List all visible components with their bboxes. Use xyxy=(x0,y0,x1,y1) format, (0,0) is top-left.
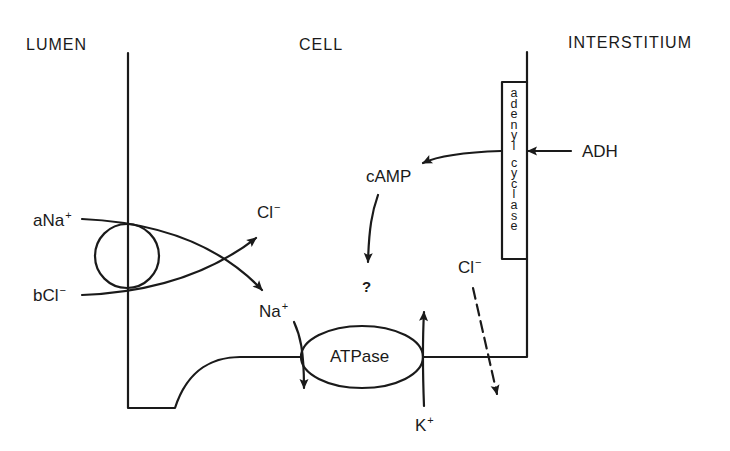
na-efflux-arrow xyxy=(294,322,304,388)
apical-membrane xyxy=(128,53,301,408)
k-influx-arrow xyxy=(423,312,424,406)
ion-label-cl-basolateral: Cl− xyxy=(458,259,482,276)
atpase-label: ATPase xyxy=(330,348,389,365)
camp-effect-arrow xyxy=(368,195,378,262)
region-label-lumen: LUMEN xyxy=(26,37,87,53)
cl-cotransport-path xyxy=(82,238,256,295)
ion-label-b-cl: bCl− xyxy=(33,287,66,304)
unknown-mechanism-label: ? xyxy=(362,279,371,294)
transport-diagram xyxy=(0,0,730,451)
ion-label-cl-out: Cl− xyxy=(257,204,281,221)
second-messenger-label-camp: cAMP xyxy=(366,168,411,185)
region-label-cell: CELL xyxy=(299,37,343,53)
cl-efflux-dashed-arrow xyxy=(473,288,497,394)
region-label-interstitium: INTERSTITIUM xyxy=(568,35,692,51)
adenyl-cyclase-label: a d e n y l c y c l a s e xyxy=(503,88,525,232)
ion-label-k: K+ xyxy=(415,417,434,434)
ion-label-na-out: Na+ xyxy=(259,303,288,320)
hormone-label-adh: ADH xyxy=(582,143,618,160)
camp-production-arrow xyxy=(423,151,501,163)
ion-label-a-na: aNa+ xyxy=(33,212,72,229)
